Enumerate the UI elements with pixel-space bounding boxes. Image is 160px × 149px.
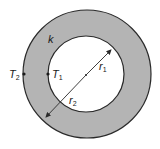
conductivity-label: k bbox=[48, 33, 54, 45]
annulus-diagram: k T2 T1 r1 r2 bbox=[0, 0, 160, 149]
outer-temp-point bbox=[22, 72, 25, 75]
inner-temp-point bbox=[46, 72, 49, 75]
outer-temp-label: T2 bbox=[9, 68, 20, 81]
